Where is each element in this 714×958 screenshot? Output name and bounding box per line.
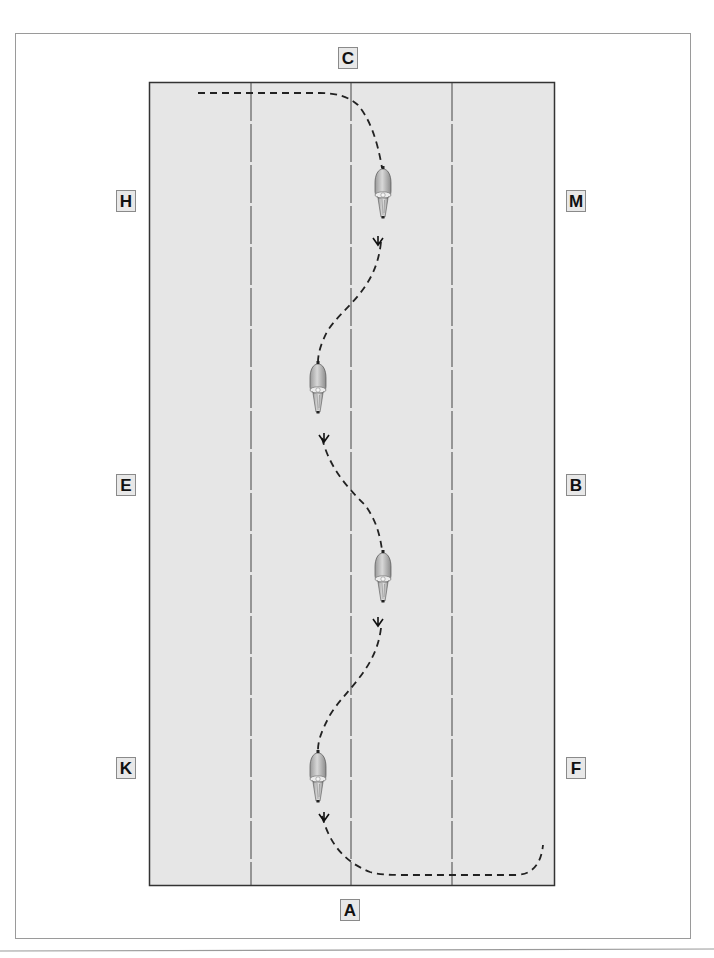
marker-h: H [116,190,136,212]
marker-f: F [566,757,586,779]
marker-e: E [116,474,136,496]
bottom-rule [0,949,714,951]
marker-a: A [340,899,360,921]
arena-diagram [0,0,714,958]
marker-m: M [566,190,586,212]
arena [150,83,555,886]
marker-b: B [566,474,586,496]
marker-k: K [116,757,136,779]
marker-c: C [338,47,358,69]
